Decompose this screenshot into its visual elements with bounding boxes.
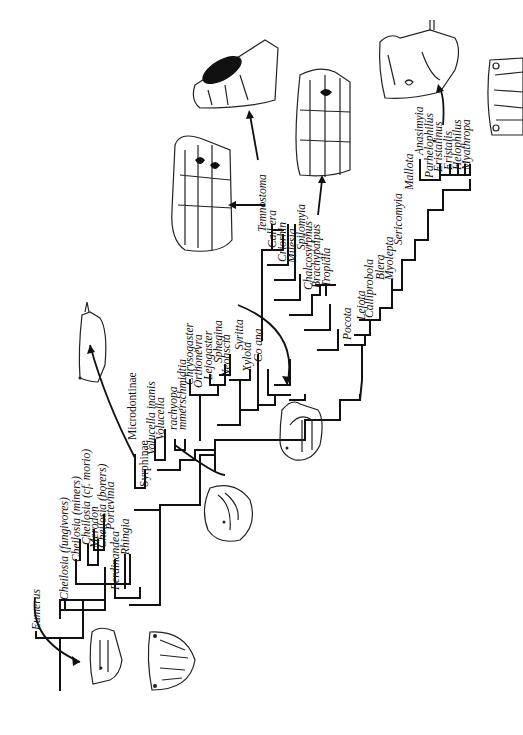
larva-brachypalpus <box>296 69 350 177</box>
label-sericomyia: Sericomyia <box>392 193 405 245</box>
larva-syrphinae <box>79 302 106 382</box>
label-ceriana: Co ana <box>252 328 264 362</box>
label-eumerus: Eumerus <box>30 589 42 631</box>
larva-eristalis-lateral <box>380 20 459 98</box>
label-myathropa: Myathropa <box>460 119 473 171</box>
arrow-eristalis <box>440 88 444 125</box>
evolution-arrows <box>35 84 444 666</box>
label-pocota: Pocota <box>341 307 353 341</box>
label-rhingia: Rhingia <box>119 518 132 556</box>
label-volucella: Volucella <box>154 397 166 440</box>
label-portevinia: Portevinia <box>104 481 116 531</box>
label-tropidia: Tropidia <box>320 248 333 287</box>
arrow-temnostoma <box>250 115 258 160</box>
label-mallota: Mallota <box>403 153 415 191</box>
larva-callicera <box>172 136 232 251</box>
larva-ceriana <box>280 402 322 460</box>
arrow-brachypalpus <box>318 180 322 215</box>
label-microdontinae: Microdontinae <box>126 372 138 440</box>
larva-eristalis-posterior <box>488 58 523 135</box>
tree-branches <box>36 160 470 690</box>
cladogram-figure: Eumerus Cheilosia (fungivores) Cheilosia… <box>0 0 523 735</box>
label-neoascia: Neoascia <box>220 334 232 378</box>
cladogram-svg: Eumerus Cheilosia (fungivores) Cheilosia… <box>0 0 523 735</box>
larva-volucella <box>204 486 252 542</box>
larva-temnostoma <box>193 40 278 108</box>
larva-eumerus-lateral <box>90 628 122 684</box>
larva-eumerus-posterior <box>148 632 195 690</box>
